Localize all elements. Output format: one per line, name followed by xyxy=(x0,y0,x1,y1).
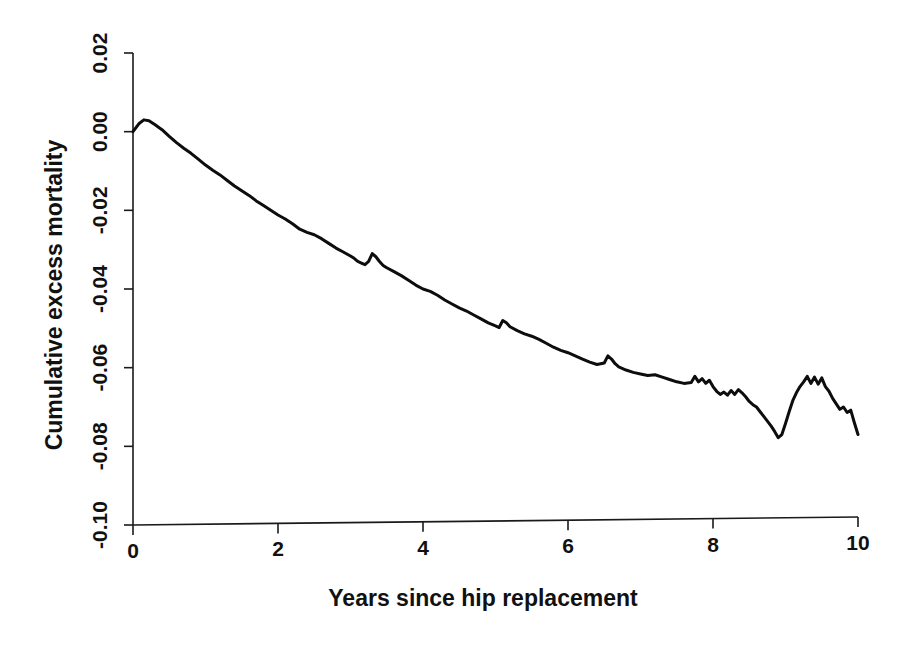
y-axis-title: Cumulative excess mortality xyxy=(41,139,67,450)
y-tick-label: -0.04 xyxy=(88,265,111,313)
y-tick-label: -0.02 xyxy=(88,186,111,234)
y-tick-label: -0.08 xyxy=(88,422,111,470)
y-axis-tick-labels: 0.020.00-0.02-0.04-0.06-0.08-0.10 xyxy=(88,33,111,549)
x-tick-label: 4 xyxy=(417,536,429,559)
chart-figure: 0.020.00-0.02-0.04-0.06-0.08-0.10 024681… xyxy=(0,0,902,651)
x-axis-tick-labels: 0246810 xyxy=(127,531,870,562)
y-tick-label: -0.06 xyxy=(88,344,111,392)
y-tick-label: -0.10 xyxy=(88,501,111,549)
y-axis xyxy=(124,53,133,525)
cumulative-excess-mortality-chart: 0.020.00-0.02-0.04-0.06-0.08-0.10 024681… xyxy=(0,0,902,651)
x-tick-label: 10 xyxy=(846,531,869,554)
y-tick-label: 0.00 xyxy=(88,111,111,152)
y-tick-label: 0.02 xyxy=(88,33,111,74)
x-axis-title: Years since hip replacement xyxy=(328,585,638,611)
x-tick-label: 0 xyxy=(127,539,139,562)
x-tick-label: 6 xyxy=(562,534,574,557)
x-axis xyxy=(133,517,858,535)
x-tick-label: 2 xyxy=(272,537,284,560)
data-series-line xyxy=(133,120,858,438)
x-tick-label: 8 xyxy=(707,533,719,556)
